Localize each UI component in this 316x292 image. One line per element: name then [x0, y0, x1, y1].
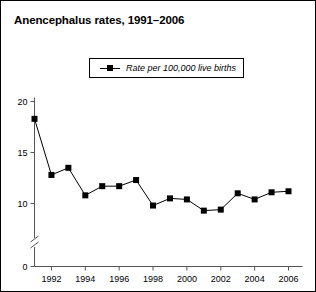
chart-axes [31, 98, 303, 267]
data-point-marker [32, 116, 38, 122]
chart-plot-area: 010152019921994199619982000200220042006 [1, 1, 316, 292]
series-line [35, 119, 289, 211]
y-tick-label: 10 [17, 199, 27, 209]
data-point-marker [235, 190, 241, 196]
x-tick-label: 2000 [177, 274, 197, 284]
data-point-marker [99, 183, 105, 189]
data-point-marker [150, 203, 156, 209]
chart-series-line [32, 116, 292, 214]
x-tick-label: 1998 [143, 274, 163, 284]
chart-figure: Anencephalus rates, 1991–2006 Rate per 1… [0, 0, 316, 292]
x-tick-label: 2006 [278, 274, 298, 284]
y-tick-label: 20 [17, 97, 27, 107]
y-tick-label: 15 [17, 148, 27, 158]
data-point-marker [48, 172, 54, 178]
data-point-marker [82, 192, 88, 198]
x-tick-label: 1992 [41, 274, 61, 284]
data-point-marker [65, 165, 71, 171]
data-point-marker [184, 196, 190, 202]
x-tick-label: 1994 [75, 274, 95, 284]
data-point-marker [167, 195, 173, 201]
data-point-marker [116, 183, 122, 189]
x-tick-label: 2002 [211, 274, 231, 284]
data-point-marker [286, 188, 292, 194]
data-point-marker [218, 207, 224, 213]
data-point-marker [201, 208, 207, 214]
data-point-marker [252, 196, 258, 202]
chart-ticks [31, 102, 289, 271]
data-point-marker [269, 189, 275, 195]
y-tick-label: 0 [22, 262, 27, 272]
chart-tick-labels: 010152019921994199619982000200220042006 [17, 97, 298, 284]
data-point-marker [133, 177, 139, 183]
x-tick-label: 1996 [109, 274, 129, 284]
x-tick-label: 2004 [245, 274, 265, 284]
